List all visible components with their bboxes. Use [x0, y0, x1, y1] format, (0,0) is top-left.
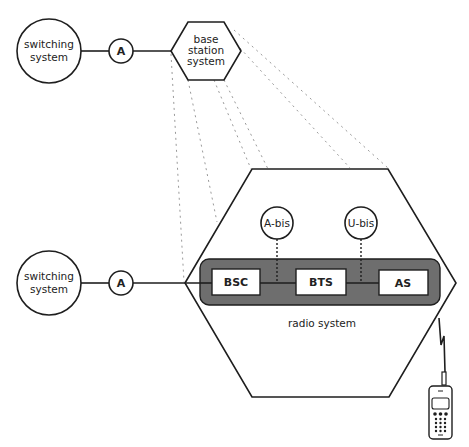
bss-architecture-diagram: switching system A base station system s… — [0, 0, 469, 447]
bottom-switching-system: switching system — [17, 251, 81, 315]
as-label: AS — [395, 277, 412, 290]
bsc-label: BSC — [224, 276, 248, 289]
u-bis-label: U-bis — [348, 217, 375, 229]
bottom-a-interface: A — [109, 271, 133, 295]
a-bis-label: A-bis — [264, 217, 290, 229]
radio-link-icon — [439, 318, 445, 372]
projection-lines — [171, 30, 388, 282]
top-a-label: A — [117, 45, 126, 58]
bottom-switching-label-2: system — [30, 283, 68, 295]
bottom-switching-label-1: switching — [24, 270, 74, 282]
bts-label: BTS — [309, 276, 333, 289]
bottom-a-label: A — [117, 277, 126, 290]
top-switching-label-2: system — [30, 51, 68, 63]
mobile-phone-icon — [429, 372, 452, 439]
radio-system-label: radio system — [288, 317, 356, 329]
top-a-interface: A — [109, 39, 133, 63]
base-station-system-hexagon: base station system — [171, 22, 241, 80]
top-switching-system: switching system — [17, 19, 81, 83]
bsc-box: BSC — [212, 269, 260, 295]
bts-box: BTS — [296, 269, 346, 295]
bss-label-3: system — [187, 55, 225, 67]
top-switching-label-1: switching — [24, 38, 74, 50]
as-box: AS — [379, 270, 428, 295]
